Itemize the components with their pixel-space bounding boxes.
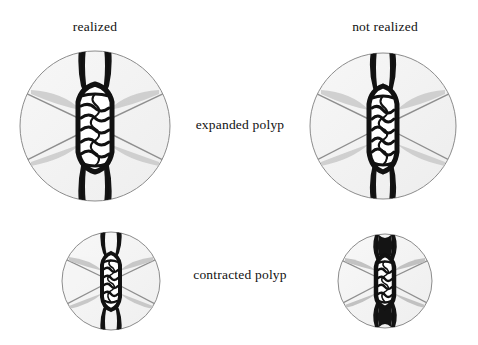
panel-expanded-realized <box>17 48 173 204</box>
column-label-realized: realized <box>0 20 190 34</box>
row-label-contracted-polyp: contracted polyp <box>172 268 308 282</box>
polyp-comparison-figure: realized not realized expanded polyp con… <box>0 0 478 345</box>
panel-contracted-realized <box>59 229 163 333</box>
panel-contracted-not-realized <box>335 231 435 331</box>
panel-expanded-not-realized <box>307 50 459 202</box>
column-label-not-realized: not realized <box>290 20 478 34</box>
row-label-expanded-polyp: expanded polyp <box>178 118 302 132</box>
